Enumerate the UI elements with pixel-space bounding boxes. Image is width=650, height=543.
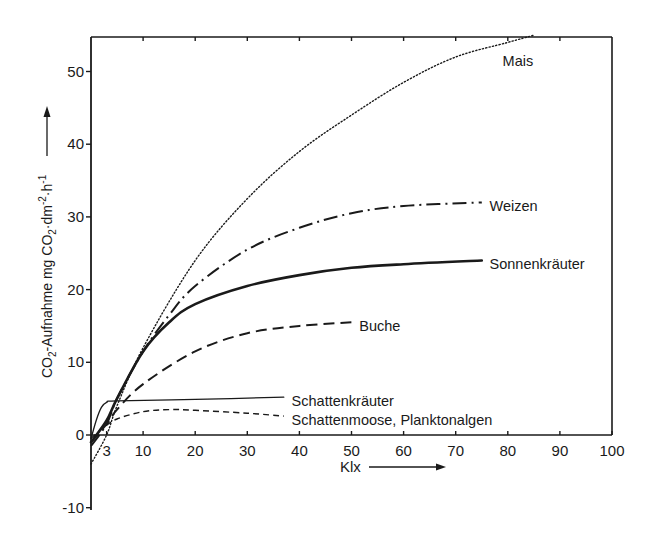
y-tick-label: -10 [62, 499, 84, 516]
y-axis-label: CO2-Aufnahme mg CO2·dm-2·h-1 [37, 174, 58, 378]
x-tick-label: 10 [135, 442, 152, 459]
x-tick-label: 40 [291, 442, 308, 459]
co2-uptake-light-chart: 3102030405060708090100 -1001020304050 Ma… [0, 0, 650, 543]
y-tick-label: 0 [76, 426, 84, 443]
y-tick-label: 30 [67, 208, 84, 225]
series-label: Buche [359, 318, 400, 334]
x-axis-label: Klx [340, 458, 361, 475]
x-tick-label: 70 [447, 442, 464, 459]
y-axis-ticks: -1001020304050 [62, 63, 91, 516]
series-label: Sonnenkräuter [490, 256, 585, 272]
y-tick-label: 50 [67, 63, 84, 80]
plot-frame [91, 37, 612, 510]
x-tick-label: 30 [239, 442, 256, 459]
series-labels: MaisWeizenSonnenkräuterBucheSchattenkräu… [292, 53, 585, 428]
x-axis-arrow-icon [436, 464, 446, 471]
x-tick-label: 20 [187, 442, 204, 459]
x-tick-label: 80 [499, 442, 516, 459]
y-axis-title: CO2-Aufnahme mg CO2·dm-2·h-1 [37, 106, 58, 378]
series-label: Schattenkräuter [292, 393, 395, 409]
x-tick-label: 100 [599, 442, 624, 459]
series-label: Weizen [490, 198, 538, 214]
series-label: Mais [503, 53, 534, 69]
x-axis-title: Klx [340, 458, 446, 475]
x-tick-label: 90 [552, 442, 569, 459]
y-axis-arrow-icon [44, 106, 51, 117]
x-tick-label: 3 [102, 442, 110, 459]
x-tick-label: 50 [343, 442, 360, 459]
y-tick-label: 40 [67, 135, 84, 152]
x-tick-label: 60 [395, 442, 412, 459]
series-label: Schattenmoose, Planktonalgen [292, 412, 493, 428]
series-weizen-curve [91, 202, 482, 446]
y-tick-label: 20 [67, 281, 84, 298]
y-tick-label: 10 [67, 353, 84, 370]
